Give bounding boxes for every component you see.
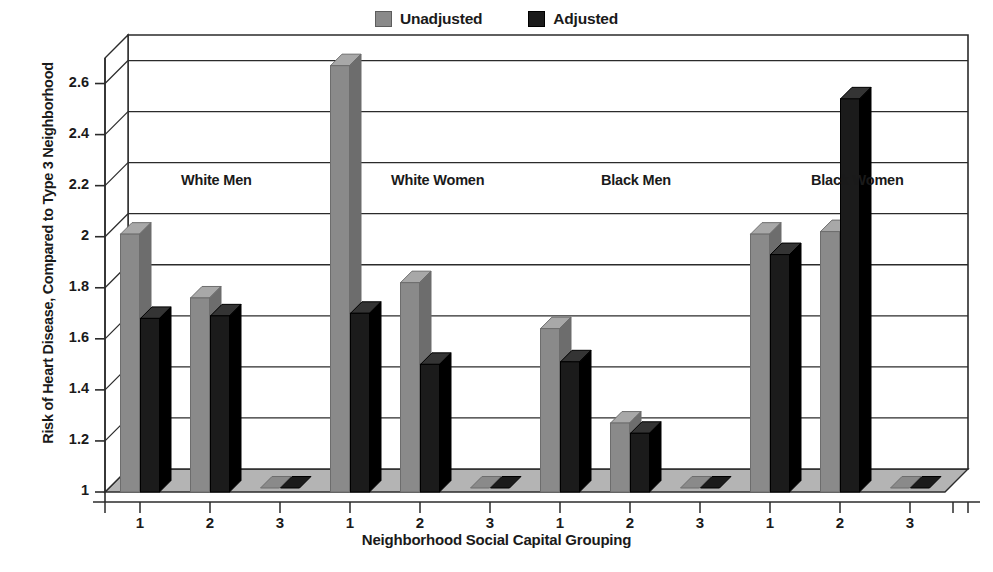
y-tick-label-1: 1 <box>47 482 89 498</box>
x-tick-label-black-men-2: 2 <box>619 514 641 531</box>
bar-chart-plot: 11.21.41.61.822.22.42.6123123123123 Whit… <box>0 0 993 572</box>
chart-canvas <box>0 0 993 572</box>
x-tick-label-black-women-1: 1 <box>759 514 781 531</box>
group-label-black-women: Black Women <box>811 172 904 188</box>
bar-white-women-cat1-adjusted[interactable] <box>351 302 382 492</box>
y-tick-label-2-4: 2.4 <box>47 125 89 141</box>
bar-black-men-cat2-adjusted[interactable] <box>631 422 662 492</box>
bar-black-women-cat2-adjusted[interactable] <box>841 87 872 492</box>
x-tick-label-black-women-3: 3 <box>899 514 921 531</box>
y-tick-label-2-2: 2.2 <box>47 176 89 192</box>
x-tick-label-white-men-3: 3 <box>269 514 291 531</box>
bar-black-women-cat1-adjusted[interactable] <box>771 243 802 492</box>
x-tick-label-black-men-1: 1 <box>549 514 571 531</box>
y-tick-label-2: 2 <box>47 227 89 243</box>
y-tick-label-2-6: 2.6 <box>47 74 89 90</box>
y-tick-label-1-6: 1.6 <box>47 329 89 345</box>
x-tick-label-white-women-2: 2 <box>409 514 431 531</box>
y-tick-label-1-4: 1.4 <box>47 380 89 396</box>
y-tick-label-1-8: 1.8 <box>47 278 89 294</box>
bar-white-men-cat1-adjusted[interactable] <box>141 307 172 492</box>
group-label-white-women: White Women <box>391 172 484 188</box>
bar-white-men-cat2-adjusted[interactable] <box>211 304 242 492</box>
group-label-white-men: White Men <box>181 172 252 188</box>
x-tick-label-black-men-3: 3 <box>689 514 711 531</box>
y-tick-label-1-2: 1.2 <box>47 431 89 447</box>
x-tick-label-white-men-1: 1 <box>129 514 151 531</box>
group-label-black-men: Black Men <box>601 172 671 188</box>
x-tick-label-white-women-3: 3 <box>479 514 501 531</box>
bar-black-men-cat1-adjusted[interactable] <box>561 350 592 492</box>
x-tick-label-white-women-1: 1 <box>339 514 361 531</box>
x-tick-label-white-men-2: 2 <box>199 514 221 531</box>
x-tick-label-black-women-2: 2 <box>829 514 851 531</box>
bar-white-women-cat2-adjusted[interactable] <box>421 353 452 492</box>
